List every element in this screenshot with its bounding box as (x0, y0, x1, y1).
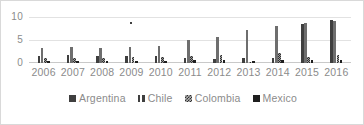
bar-chile-2013 (246, 30, 249, 63)
y-axis-tick-label: 10 (11, 12, 23, 22)
legend-label: Chile (148, 92, 173, 104)
chile-swatch-icon (138, 95, 145, 102)
bar-colombia-2008 (102, 58, 105, 63)
bar-argentina-2014 (272, 58, 275, 63)
bar-argentina-2006 (38, 56, 41, 63)
bar-mexico-2012 (223, 60, 226, 63)
x-axis-tick-label: 2009 (119, 65, 143, 79)
bar-colombia-2007 (73, 58, 76, 63)
x-axis-tick-label: 2006 (32, 65, 56, 79)
data-point-marker (130, 22, 132, 24)
legend-label: Mexico (263, 92, 297, 104)
bar-group (146, 17, 175, 63)
plot-area (29, 17, 351, 63)
x-axis-tick-label: 2011 (178, 65, 201, 79)
legend-label: Argentina (79, 92, 126, 104)
y-axis-tick-label: 0 (17, 58, 23, 68)
bar-argentina-2011 (184, 58, 187, 63)
bar-argentina-2012 (213, 59, 216, 63)
bar-mexico-2010 (164, 61, 167, 63)
bar-group (58, 17, 87, 63)
y-axis: 0510 (1, 17, 27, 63)
legend-label: Colombia (195, 92, 241, 104)
legend-item-argentina[interactable]: Argentina (69, 92, 126, 104)
argentina-swatch-icon (69, 95, 76, 102)
chart-container: 0510 20062007200820092010201120122013201… (0, 0, 364, 125)
x-axis-tick-label: 2014 (266, 65, 290, 79)
colombia-swatch-icon (185, 95, 192, 102)
bar-argentina-2013 (242, 58, 245, 63)
bar-colombia-2014 (278, 53, 281, 63)
bar-mexico-2015 (311, 60, 314, 63)
bar-argentina-2016 (330, 20, 333, 63)
x-axis-tick-label: 2015 (295, 65, 319, 79)
bar-group (263, 17, 292, 63)
bar-mexico-2013 (252, 61, 255, 63)
bar-colombia-2011 (190, 56, 193, 63)
mexico-swatch-icon (253, 95, 260, 102)
legend-item-chile[interactable]: Chile (138, 92, 173, 104)
bar-group (322, 17, 351, 63)
bar-mexico-2014 (281, 60, 284, 63)
bar-colombia-2010 (161, 57, 164, 63)
x-axis: 2006200720082009201020112012201320142015… (29, 65, 351, 81)
bar-group (175, 17, 204, 63)
bar-colombia-2012 (220, 55, 223, 63)
bar-colombia-2015 (307, 57, 310, 63)
bar-colombia-2006 (44, 58, 47, 63)
x-axis-tick-label: 2007 (61, 65, 85, 79)
bar-group (88, 17, 117, 63)
bar-mexico-2008 (106, 61, 109, 63)
legend-item-mexico[interactable]: Mexico (253, 92, 297, 104)
bar-group (234, 17, 263, 63)
bar-argentina-2009 (125, 56, 128, 63)
bar-argentina-2008 (96, 56, 99, 63)
y-axis-tick-label: 5 (17, 35, 23, 45)
bar-argentina-2007 (67, 55, 70, 63)
bar-mexico-2007 (76, 61, 79, 63)
bar-mexico-2016 (340, 60, 343, 63)
bar-mexico-2011 (193, 60, 196, 63)
chart-legend: ArgentinaChileColombiaMexico (1, 92, 364, 104)
bar-colombia-2013 (249, 62, 252, 63)
bar-group (29, 17, 58, 63)
x-axis-tick-label: 2008 (90, 65, 114, 79)
bar-colombia-2009 (132, 57, 135, 63)
bar-group (292, 17, 321, 63)
x-axis-tick-label: 2012 (207, 65, 231, 79)
bar-mexico-2009 (135, 61, 138, 63)
bar-group (205, 17, 234, 63)
legend-item-colombia[interactable]: Colombia (185, 92, 241, 104)
bar-argentina-2010 (155, 56, 158, 63)
bar-colombia-2016 (337, 55, 340, 63)
bar-group (117, 17, 146, 63)
bar-mexico-2006 (47, 61, 50, 63)
x-axis-tick-label: 2013 (236, 65, 260, 79)
bar-argentina-2015 (301, 24, 304, 63)
x-axis-tick-label: 2016 (324, 65, 348, 79)
x-axis-tick-label: 2010 (149, 65, 173, 79)
